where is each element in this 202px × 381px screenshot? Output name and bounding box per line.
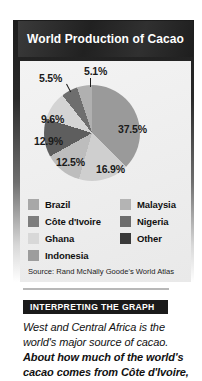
interpreting-line-4: cacao comes from Côte d'Ivoire, <box>23 365 195 380</box>
legend-item-nigeria: Nigeria <box>120 213 190 229</box>
legend-label: Malaysia <box>137 199 176 210</box>
legend-item-malaysia: Malaysia <box>120 196 190 212</box>
legend-label: Indonesia <box>45 250 88 261</box>
legend-column-right: Malaysia Nigeria Other <box>120 196 190 247</box>
legend-swatch-icon <box>120 233 131 244</box>
interpreting-body: West and Central Africa is the world's m… <box>23 320 195 380</box>
legend-label: Other <box>137 233 162 244</box>
interpreting-line-2: world's major source of cacao. <box>23 335 195 350</box>
pie-label-nigeria: 9.6% <box>41 113 64 125</box>
legend-item-other: Other <box>120 230 190 246</box>
pie-label-indonesia: 12.5% <box>56 156 85 168</box>
chart-title-bar: World Production of Cacao <box>18 21 193 57</box>
chart-source: Source: Rand McNally Goode's World Atlas <box>28 267 174 276</box>
legend-label: Brazil <box>45 199 70 210</box>
legend-swatch-icon <box>120 199 131 210</box>
legend-label: Ghana <box>45 233 74 244</box>
legend-column-left: Brazil Côte d'Ivoire Ghana Indonesia <box>28 196 114 264</box>
figure-world-production-of-cacao: World Production of Cacao 37.5% 16.9% 12… <box>0 0 202 381</box>
interpreting-line-3: About how much of the world's <box>23 350 195 365</box>
leader-line-other <box>90 78 91 87</box>
legend-swatch-icon <box>120 216 131 227</box>
pie-label-cote-divoire: 37.5% <box>118 123 147 135</box>
legend-label: Côte d'Ivoire <box>45 216 101 227</box>
legend-swatch-icon <box>28 216 39 227</box>
legend-item-brazil: Brazil <box>28 196 114 212</box>
pie-label-ghana: 16.9% <box>96 163 125 175</box>
interpreting-line-1: West and Central Africa is the <box>23 320 195 335</box>
interpreting-heading: INTERPRETING THE GRAPH <box>30 302 155 312</box>
legend-item-cote-divoire: Côte d'Ivoire <box>28 213 114 229</box>
legend-label: Nigeria <box>137 216 169 227</box>
legend-swatch-icon <box>28 250 39 261</box>
section-divider <box>23 288 169 290</box>
legend-swatch-icon <box>28 199 39 210</box>
pie-label-malaysia: 5.5% <box>39 72 62 84</box>
pie-label-other: 5.1% <box>84 65 107 77</box>
interpreting-banner: INTERPRETING THE GRAPH <box>23 300 168 314</box>
legend-item-ghana: Ghana <box>28 230 114 246</box>
page-title: World Production of Cacao <box>27 32 184 46</box>
pie-label-brazil: 12.9% <box>34 135 63 147</box>
legend-swatch-icon <box>28 233 39 244</box>
legend-item-indonesia: Indonesia <box>28 247 114 263</box>
